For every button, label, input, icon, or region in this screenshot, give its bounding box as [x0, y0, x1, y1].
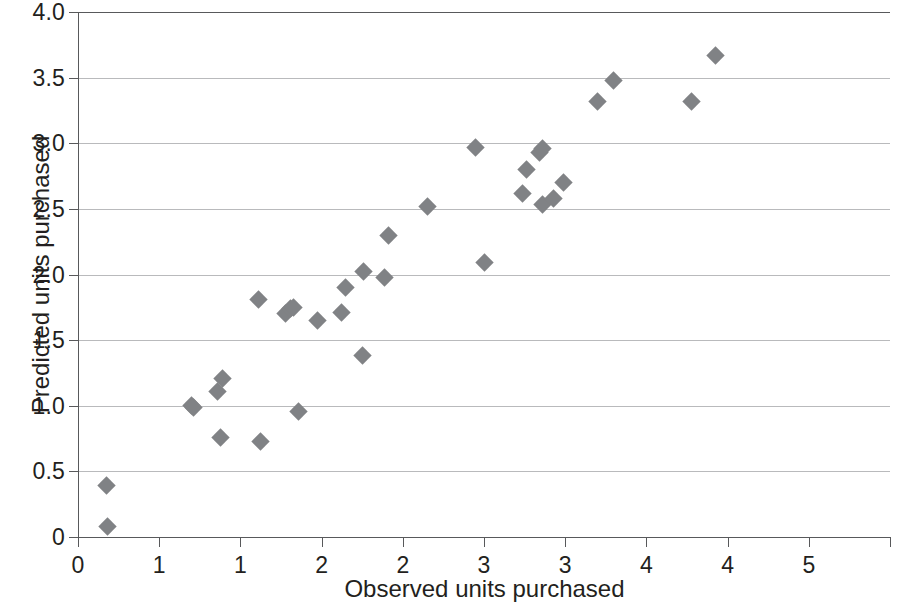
scatter-chart: 00.51.01.52.02.53.03.54.0 0112233445 Obs…	[0, 0, 899, 608]
data-point	[251, 432, 269, 450]
data-point	[514, 184, 532, 202]
x-tick-mark	[728, 538, 729, 547]
data-point	[333, 303, 351, 321]
x-tick-mark	[403, 538, 404, 547]
x-tick-mark	[809, 538, 810, 547]
data-point	[706, 46, 724, 64]
data-point	[379, 226, 397, 244]
x-tick-mark	[159, 538, 160, 547]
y-tick-mark	[69, 537, 78, 538]
data-point	[605, 71, 623, 89]
gridline	[78, 275, 890, 276]
data-point	[211, 428, 229, 446]
data-point	[355, 263, 373, 281]
x-tick-mark	[78, 538, 79, 547]
y-tick-mark	[69, 143, 78, 144]
gridline	[78, 143, 890, 144]
data-point	[475, 253, 493, 271]
plot-area: 00.51.01.52.02.53.03.54.0	[78, 12, 890, 537]
gridline	[78, 471, 890, 472]
data-point	[554, 173, 572, 191]
x-tick-mark	[890, 538, 891, 547]
x-tick-mark	[240, 538, 241, 547]
data-point	[376, 268, 394, 286]
data-point	[588, 92, 606, 110]
data-point	[308, 311, 326, 329]
x-tick-mark	[322, 538, 323, 547]
data-point	[290, 402, 308, 420]
y-tick-mark	[69, 78, 78, 79]
data-point	[682, 92, 700, 110]
data-point	[353, 347, 371, 365]
y-tick-mark	[69, 406, 78, 407]
gridline	[78, 340, 890, 341]
y-tick-mark	[69, 471, 78, 472]
data-point	[467, 138, 485, 156]
data-point	[97, 477, 115, 495]
x-tick-mark	[565, 538, 566, 547]
data-point	[418, 197, 436, 215]
x-tick-mark	[484, 538, 485, 547]
y-tick-mark	[69, 12, 78, 13]
gridline	[78, 209, 890, 210]
x-axis-title: Observed units purchased	[78, 575, 891, 603]
data-point	[517, 160, 535, 178]
y-axis-title: Predicted units purchased	[26, 12, 56, 537]
gridline	[78, 78, 890, 79]
y-tick-mark	[69, 275, 78, 276]
y-tick-mark	[69, 340, 78, 341]
x-tick-mark	[646, 538, 647, 547]
data-point	[249, 290, 267, 308]
data-point	[98, 517, 116, 535]
y-tick-mark	[69, 209, 78, 210]
gridline	[78, 12, 890, 13]
y-axis-line	[78, 12, 79, 538]
data-point	[337, 278, 355, 296]
